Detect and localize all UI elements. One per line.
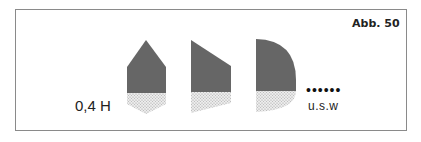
rounded-shape-upper [256, 39, 296, 91]
continuation-dots: •••••• [306, 85, 341, 95]
pointed-shape [127, 40, 166, 114]
slanted-shape-upper [191, 40, 231, 92]
figure-label: Abb. 50 [352, 17, 400, 30]
slanted-shape [191, 40, 231, 113]
rounded-shape-lower [256, 91, 296, 112]
pointed-shape-upper [127, 40, 166, 93]
height-label: 0,4 H [75, 97, 111, 114]
pointed-shape-lower [127, 93, 166, 114]
slanted-shape-lower [191, 92, 231, 113]
continuation-label: u.s.w [308, 99, 339, 113]
rounded-shape [256, 39, 296, 112]
